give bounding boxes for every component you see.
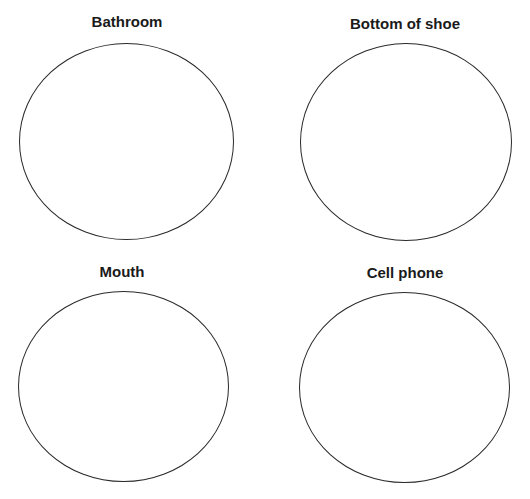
panel-title-bathroom: Bathroom xyxy=(92,13,163,30)
panel-title-bottom-of-shoe: Bottom of shoe xyxy=(350,15,460,32)
circle-bottom-of-shoe xyxy=(300,43,512,241)
circle-mouth xyxy=(18,291,229,482)
circle-cell-phone xyxy=(299,292,510,483)
panel-title-mouth: Mouth xyxy=(100,263,145,280)
panel-title-cell-phone: Cell phone xyxy=(367,264,444,281)
circle-bathroom xyxy=(19,43,234,240)
